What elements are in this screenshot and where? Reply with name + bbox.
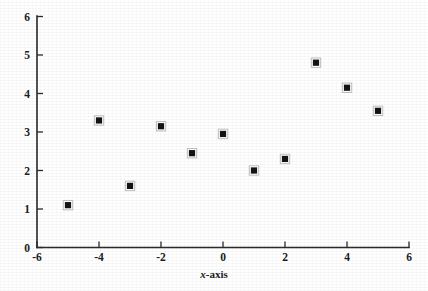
data-point bbox=[344, 85, 350, 91]
data-point bbox=[282, 156, 288, 162]
data-point bbox=[251, 167, 257, 173]
x-tick-label: 6 bbox=[406, 251, 412, 263]
y-tick-label: 4 bbox=[24, 88, 30, 100]
x-tick-label: -4 bbox=[94, 251, 104, 263]
data-point bbox=[158, 123, 164, 129]
scatter-plot-figure: -6 -4 -2 0 2 4 6 0 1 2 3 4 5 6 x-axis bbox=[0, 0, 428, 291]
y-axis-tick-labels: 0 1 2 3 4 5 6 bbox=[24, 11, 30, 254]
data-point bbox=[375, 108, 381, 114]
data-point bbox=[220, 131, 226, 137]
data-point bbox=[189, 150, 195, 156]
x-axis-title-suffix: -axis bbox=[206, 268, 229, 280]
data-point bbox=[96, 117, 102, 123]
data-point bbox=[313, 60, 319, 66]
plot-canvas: -6 -4 -2 0 2 4 6 0 1 2 3 4 5 6 x-axis bbox=[0, 0, 428, 291]
y-tick-label: 5 bbox=[24, 49, 30, 61]
y-tick-label: 6 bbox=[24, 11, 30, 23]
x-axis-tick-labels: -6 -4 -2 0 2 4 6 bbox=[32, 251, 412, 263]
x-tick-label: 2 bbox=[282, 251, 288, 263]
x-axis-ticks bbox=[37, 242, 409, 248]
x-axis-title: x-axis bbox=[199, 268, 228, 280]
y-axis-ticks bbox=[37, 17, 43, 248]
data-point bbox=[65, 202, 71, 208]
y-tick-label: 1 bbox=[24, 203, 30, 215]
x-tick-label: -2 bbox=[156, 251, 166, 263]
y-tick-label: 3 bbox=[24, 126, 30, 138]
x-tick-label: 4 bbox=[344, 251, 350, 263]
y-tick-label: 2 bbox=[24, 165, 30, 177]
data-point bbox=[127, 183, 133, 189]
y-tick-label: 0 bbox=[24, 242, 30, 254]
x-tick-label: -6 bbox=[32, 251, 42, 263]
data-point-layer bbox=[63, 58, 382, 210]
x-tick-label: 0 bbox=[220, 251, 226, 263]
